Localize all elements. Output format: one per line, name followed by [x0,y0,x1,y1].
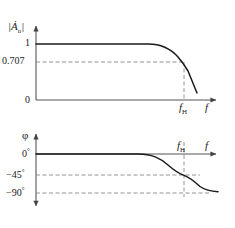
phase-ytick-0: 0° [22,148,30,159]
magnitude-plot [36,26,216,100]
magnitude-fh-marker-label: fH [179,102,187,116]
phase-ytick-minus45-value: −45 [6,169,22,180]
phase-ytick-minus45: −45° [6,169,24,180]
magnitude-ytick-0: 0 [25,95,30,105]
phase-ytick-minus90: −90° [6,187,24,198]
phase-ytick-minus45-degree: ° [22,168,25,176]
phase-ytick-minus90-degree: ° [22,186,25,194]
magnitude-ytick-0707: 0.707 [2,56,25,66]
phase-fh-marker-label: fH [177,140,185,154]
magnitude-x-axis-label: f [205,102,208,113]
plot-canvas [0,0,235,228]
magnitude-y-axis-label-main: |Ȧ [8,20,18,32]
phase-y-axis-label: φ [22,130,28,141]
magnitude-y-axis-label-bar: | [21,20,24,32]
magnitude-ytick-1: 1 [25,38,30,48]
phase-fh-marker-subscript: H [180,146,185,154]
magnitude-response-curve [36,44,197,93]
phase-plot [33,134,218,206]
phase-ytick-0-degree: ° [27,147,30,155]
phase-x-axis-label: f [205,140,208,151]
phase-y-axis-down-arrow [33,201,38,206]
phase-response-curve [36,154,218,192]
magnitude-fh-marker-subscript: H [182,108,187,116]
magnitude-y-axis-label: |Ȧu| [8,21,24,35]
phase-ytick-minus90-value: −90 [6,187,22,198]
figure-frequency-response: |Ȧu| 1 0.707 0 fH f φ 0° −45° −90° fH f [0,0,235,228]
